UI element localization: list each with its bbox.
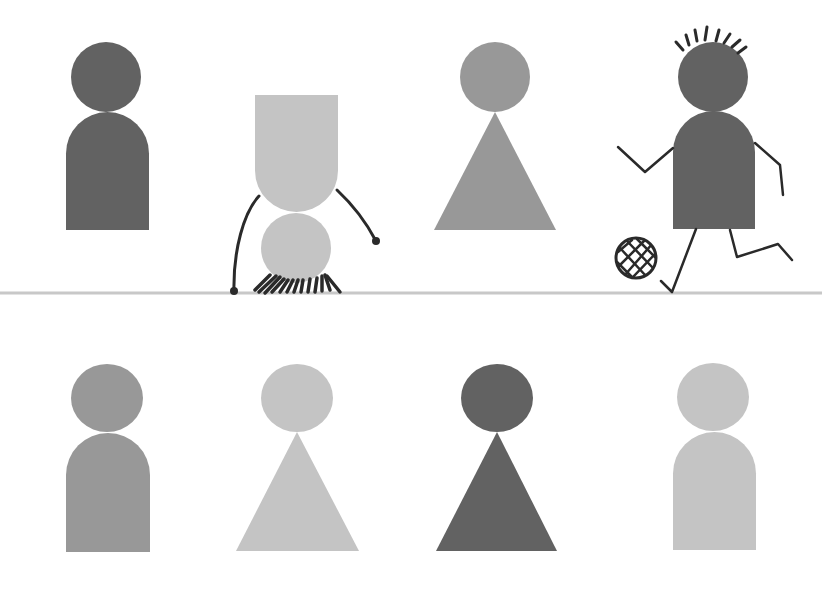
figure-handstand-light [255, 95, 338, 283]
figure-body [66, 433, 150, 552]
figure-rounded-light [673, 363, 756, 550]
figure-rounded-medium [66, 364, 150, 552]
hair-strand [315, 278, 317, 292]
figure-body [673, 432, 756, 550]
hair-strand [695, 30, 697, 41]
hair-strand [301, 280, 303, 292]
hair-strand [705, 27, 707, 40]
hair-strand [308, 279, 310, 292]
figure-head [71, 364, 143, 432]
figure-head [677, 363, 749, 431]
figure-body [255, 95, 338, 212]
scene-canvas [0, 0, 822, 589]
hand-dot [230, 287, 238, 295]
figure-head [461, 364, 533, 432]
figure-standing-rounded-dark [66, 42, 149, 230]
figure-body [673, 111, 755, 229]
hand-dot [372, 237, 380, 245]
figure-head [71, 42, 141, 112]
figure-body [66, 112, 149, 230]
figure-head [460, 42, 530, 112]
figure-head [261, 213, 331, 283]
figure-head [261, 364, 333, 432]
figure-kicking-ball-dark [673, 42, 755, 229]
